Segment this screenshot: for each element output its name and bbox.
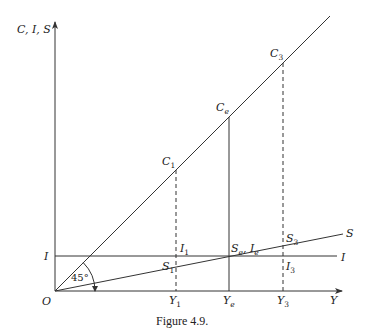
point-i1-label: I1 xyxy=(179,242,189,257)
x-tick-ye: Ye xyxy=(223,294,235,309)
point-se-ie-label: Se, Ie xyxy=(231,242,259,257)
origin-label: O xyxy=(42,295,51,308)
y-axis-label: C, I, S xyxy=(17,23,51,36)
x-axis-label: Y xyxy=(330,294,339,307)
saving-line-label: S xyxy=(346,227,354,240)
point-i3-label: I3 xyxy=(285,260,295,275)
point-c1-label: C1 xyxy=(162,155,175,170)
point-s1-label: S1 xyxy=(162,260,174,275)
i-level-label: I xyxy=(43,250,49,263)
point-ce-label: Ce xyxy=(216,101,229,116)
point-s3-label: S3 xyxy=(286,232,299,247)
investment-line-label: I xyxy=(340,251,346,264)
angle-label: 45° xyxy=(71,272,89,283)
income-determination-diagram: C, I, S O I 45° C1 Ce C3 I1 S1 Se, Ie S3… xyxy=(0,0,366,336)
figure-caption: Figure 4.9. xyxy=(156,314,208,328)
x-tick-y1: Y1 xyxy=(169,294,181,309)
saving-line xyxy=(55,234,343,291)
consumption-45-degree-line xyxy=(55,16,330,291)
point-c3-label: C3 xyxy=(270,47,283,62)
x-tick-y3: Y3 xyxy=(277,294,289,309)
